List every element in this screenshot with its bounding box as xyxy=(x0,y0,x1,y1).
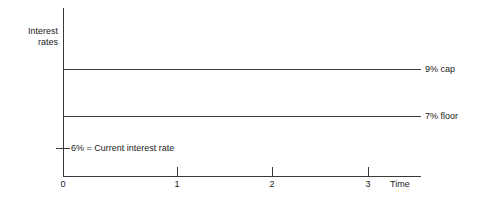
cap-level-label: 9% cap xyxy=(425,64,455,75)
y-axis-title-line1: Interest xyxy=(28,26,58,36)
y-axis-title: Interestrates xyxy=(4,26,58,48)
x-tick-1 xyxy=(177,167,178,176)
x-tick-label-2: 2 xyxy=(266,179,278,190)
x-tick-0 xyxy=(63,167,64,176)
interest-rate-chart: Interestrates 9% cap 7% floor 6% = Curre… xyxy=(0,0,486,205)
cap-level-line xyxy=(63,69,421,70)
x-tick-label-1: 1 xyxy=(171,179,183,190)
x-axis-title: Time xyxy=(390,179,410,190)
x-tick-2 xyxy=(272,167,273,176)
current-rate-tick-icon xyxy=(56,148,70,149)
x-axis-line xyxy=(63,176,421,177)
floor-level-line xyxy=(63,116,421,117)
y-axis-title-line2: rates xyxy=(38,37,58,47)
x-tick-3 xyxy=(368,167,369,176)
current-rate-label: 6% = Current interest rate xyxy=(71,143,174,154)
y-axis-line xyxy=(63,8,64,177)
x-tick-label-3: 3 xyxy=(362,179,374,190)
x-tick-label-0: 0 xyxy=(57,179,69,190)
floor-level-label: 7% floor xyxy=(425,111,458,122)
